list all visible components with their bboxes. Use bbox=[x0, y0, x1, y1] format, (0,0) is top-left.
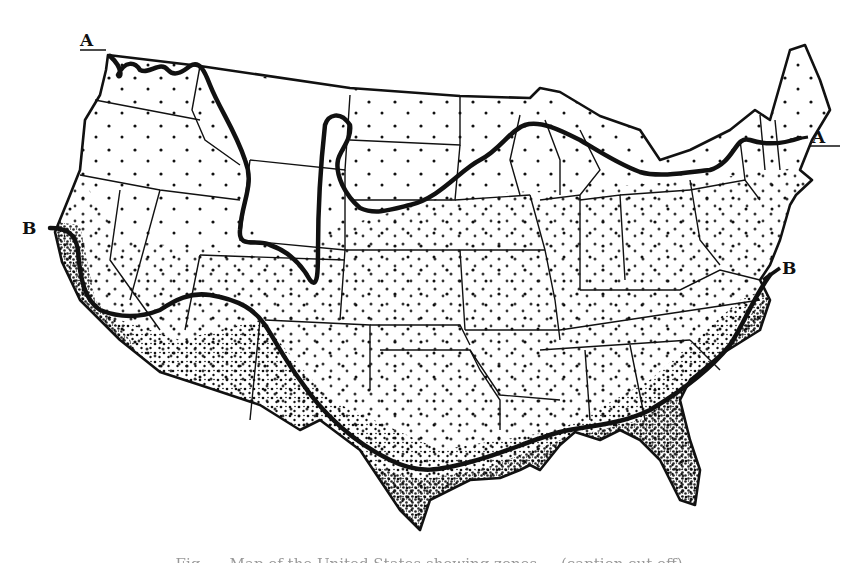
label-b-east: B bbox=[782, 258, 796, 278]
label-a-west: A bbox=[79, 30, 94, 50]
label-a-east: A bbox=[811, 127, 826, 147]
figure-caption: Fig. — Map of the United States showing … bbox=[0, 549, 858, 563]
label-b-west: B bbox=[22, 218, 36, 238]
us-stipple-map: A A B B bbox=[0, 0, 858, 545]
